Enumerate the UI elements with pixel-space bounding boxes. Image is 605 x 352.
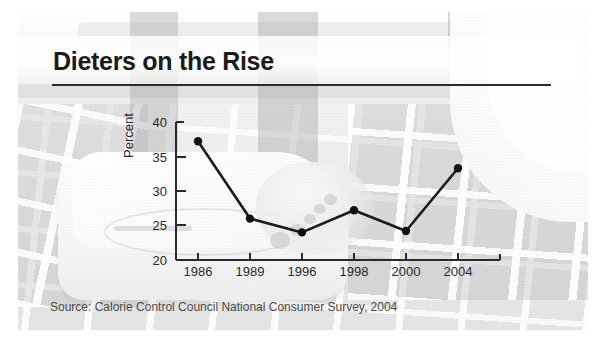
x-tick-label-1996: 1996 xyxy=(279,264,325,279)
y-tick-label-40: 40 xyxy=(141,115,167,130)
x-tick-label-1986: 1986 xyxy=(175,264,221,279)
x-tick-label-1989: 1989 xyxy=(227,264,273,279)
y-tick-label-20: 20 xyxy=(141,253,167,268)
page-title: Dieters on the Rise xyxy=(53,47,274,76)
y-tick-label-25: 25 xyxy=(141,218,167,233)
y-tick-label-30: 30 xyxy=(141,184,167,199)
x-tick-label-1998: 1998 xyxy=(331,264,377,279)
source-note: Source: Calorie Control Council National… xyxy=(50,300,397,314)
y-axis-label: Percent xyxy=(121,68,136,158)
x-tick-label-2004: 2004 xyxy=(435,264,481,279)
x-tick-label-2000: 2000 xyxy=(383,264,429,279)
figure-container: Dieters on the Rise Percent xyxy=(0,0,605,352)
y-tick-label-35: 35 xyxy=(141,150,167,165)
